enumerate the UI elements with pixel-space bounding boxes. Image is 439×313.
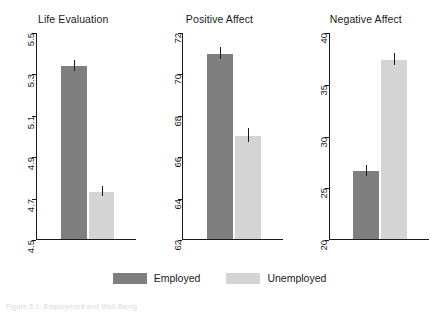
bar-group [183, 33, 282, 239]
bar-unemployed[interactable] [235, 136, 261, 239]
y-tick-label: 4.7 [26, 199, 36, 212]
y-tick-label: 5.3 [26, 74, 36, 87]
bar-group [37, 33, 136, 239]
error-bar-unemployed [394, 53, 395, 65]
panel-negative-affect: Negative Affect 40 35 30 25 20 [293, 0, 439, 262]
y-tick-label: 35 [319, 85, 329, 96]
x-axis-line [182, 239, 282, 240]
y-tick-label: 64 [173, 199, 183, 210]
error-bar-employed [220, 47, 221, 60]
y-tick-label: 68 [173, 116, 183, 127]
chart-legend: Employed Unemployed [0, 270, 439, 286]
plot-area: 5.5 5.3 5.1 4.9 4.7 4.5 [36, 33, 136, 240]
bar-employed[interactable] [353, 171, 379, 239]
panel-title: Positive Affect [146, 13, 292, 25]
bar-group [330, 33, 429, 239]
legend-swatch-icon [113, 273, 147, 284]
x-axis-line [329, 239, 429, 240]
bar-employed[interactable] [207, 54, 233, 239]
error-bar-employed [74, 60, 75, 72]
panel-title: Negative Affect [293, 13, 439, 25]
plot-area: 72 70 68 66 64 62 [182, 33, 282, 240]
bar-employed[interactable] [61, 66, 87, 239]
legend-label: Unemployed [267, 272, 326, 284]
error-bar-unemployed [102, 186, 103, 196]
y-tick-label: 20 [319, 240, 329, 251]
y-tick-label: 25 [319, 188, 329, 199]
panel-positive-affect: Positive Affect 72 70 68 66 64 62 [146, 0, 292, 262]
y-tick-label: 4.5 [26, 240, 36, 253]
y-tick-label: 40 [319, 33, 329, 44]
panel-title: Life Evaluation [0, 13, 146, 25]
bar-unemployed[interactable] [381, 60, 407, 239]
y-tick-label: 70 [173, 74, 183, 85]
y-tick-label: 5.1 [26, 116, 36, 129]
legend-swatch-icon [226, 273, 260, 284]
y-tick-label: 30 [319, 137, 329, 148]
error-bar-unemployed [248, 128, 249, 142]
y-tick-label: 4.9 [26, 157, 36, 170]
figure-caption: Figure 5.1: Employment and Well-Being [6, 303, 137, 310]
x-axis-line [36, 239, 136, 240]
panel-row: Life Evaluation 5.5 5.3 5.1 4.9 4.7 4.5 [0, 0, 439, 262]
bar-unemployed[interactable] [89, 192, 115, 239]
y-tick-label: 5.5 [26, 33, 36, 46]
plot-area: 40 35 30 25 20 [329, 33, 429, 240]
error-bar-employed [366, 165, 367, 175]
panel-life-evaluation: Life Evaluation 5.5 5.3 5.1 4.9 4.7 4.5 [0, 0, 146, 262]
y-tick-label: 72 [173, 33, 183, 44]
legend-item-unemployed[interactable]: Unemployed [226, 272, 326, 284]
figure-container: Life Evaluation 5.5 5.3 5.1 4.9 4.7 4.5 [0, 0, 439, 313]
y-tick-label: 66 [173, 157, 183, 168]
legend-label: Employed [154, 272, 201, 284]
y-tick-label: 62 [173, 240, 183, 251]
legend-item-employed[interactable]: Employed [113, 272, 201, 284]
